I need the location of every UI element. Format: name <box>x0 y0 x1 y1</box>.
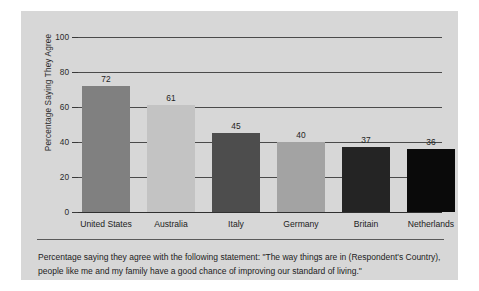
bar-italy[interactable] <box>212 133 260 212</box>
bar-slot-britain: 37 Britain <box>342 11 390 212</box>
bar-britain[interactable] <box>342 147 390 212</box>
y-tick-label-40: 40 <box>43 137 69 147</box>
caption-divider <box>37 239 444 240</box>
bar-value-netherlands: 36 <box>407 137 455 147</box>
bar-netherlands[interactable] <box>407 149 455 212</box>
bar-slot-germany: 40 Germany <box>277 11 325 212</box>
caption-line-1: Percentage saying they agree with the fo… <box>38 252 403 262</box>
bar-slot-netherlands: 36 Netherlands <box>407 11 455 212</box>
y-tick-mark-0 <box>72 212 78 213</box>
y-tick-label-60: 60 <box>43 102 69 112</box>
x-tick-label-netherlands: Netherlands <box>389 219 473 229</box>
chart-caption: Percentage saying they agree with the fo… <box>38 251 442 278</box>
bar-value-australia: 61 <box>147 93 195 103</box>
y-tick-label-100: 100 <box>43 32 69 42</box>
bar-australia[interactable] <box>147 105 195 212</box>
axis-baseline <box>78 212 442 213</box>
bar-slot-australia: 61 Australia <box>147 11 195 212</box>
bar-slot-italy: 45 Italy <box>212 11 260 212</box>
bar-united-states[interactable] <box>82 86 130 212</box>
bar-value-britain: 37 <box>342 135 390 145</box>
figure-panel: Percentage Saying They Agree 100 80 60 4… <box>21 11 458 280</box>
y-tick-label-80: 80 <box>43 67 69 77</box>
bar-slot-united-states: 72 United States <box>82 11 130 212</box>
y-tick-label-20: 20 <box>43 172 69 182</box>
chart-plot-area: Percentage Saying They Agree 100 80 60 4… <box>21 11 458 216</box>
y-tick-label-0: 0 <box>43 207 69 217</box>
bar-value-germany: 40 <box>277 130 325 140</box>
bar-germany[interactable] <box>277 142 325 212</box>
bar-value-italy: 45 <box>212 121 260 131</box>
bar-series: 72 United States 61 Australia 45 Italy 4… <box>78 11 442 212</box>
bar-value-united-states: 72 <box>82 74 130 84</box>
